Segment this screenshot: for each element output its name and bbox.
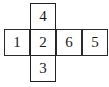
net-cell-middle-far-right: 5 xyxy=(82,29,108,56)
net-cell-middle-right-label: 6 xyxy=(65,35,73,50)
cube-net-figure: 4 1 2 6 5 3 xyxy=(0,0,109,87)
net-cell-middle-far-right-label: 5 xyxy=(91,35,99,50)
net-cell-middle-center: 2 xyxy=(30,29,56,56)
net-cell-top-label: 4 xyxy=(39,9,47,24)
net-cell-bottom: 3 xyxy=(30,55,56,82)
net-cell-top: 4 xyxy=(30,3,56,30)
net-cell-middle-left-label: 1 xyxy=(13,35,21,50)
net-cell-middle-right: 6 xyxy=(56,29,82,56)
net-cell-middle-left: 1 xyxy=(4,29,30,56)
net-cell-middle-center-label: 2 xyxy=(39,35,47,50)
net-cell-bottom-label: 3 xyxy=(39,61,47,76)
